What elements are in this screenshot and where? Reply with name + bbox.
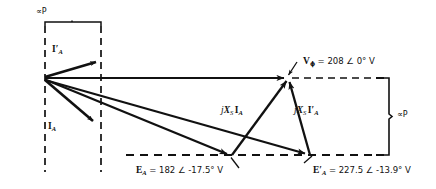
- phasor-jxs-ia: [232, 81, 287, 155]
- alpha-p-top-label: ∝P: [36, 7, 47, 16]
- leader-ea-primed: [304, 156, 312, 163]
- bracket-right-alpha-p: [382, 78, 392, 155]
- alpha-p-right-label: ∝P: [397, 110, 408, 119]
- leader-v-phi: [289, 62, 298, 75]
- jxs-ia-i-subscript: A: [238, 109, 242, 116]
- ea-primed-symbol: E′: [313, 165, 322, 175]
- jxs-ia-primed-label: jXSI′A: [294, 106, 319, 116]
- phasor-diagram-canvas: [0, 0, 436, 189]
- phasor-ea-primed: [45, 80, 305, 154]
- ea-primed-label: E′A= 227.5 ∠ -13.9° V: [313, 166, 411, 176]
- v-phi-label: Vϕ= 208 ∠ 0° V: [303, 57, 375, 67]
- jxs-ia-x-subscript: S: [230, 109, 233, 116]
- bracket-top-alpha-p: [45, 21, 101, 27]
- jxs-iap-x-subscript: S: [303, 109, 306, 116]
- ea-value: = 182 ∠ -17.5° V: [149, 165, 223, 175]
- ea-primed-subscript: A: [322, 169, 326, 176]
- ea-label: EA= 182 ∠ -17.5° V: [136, 166, 223, 176]
- leader-ea: [231, 158, 239, 169]
- current-primed-subscript: A: [58, 48, 62, 55]
- v-phi-value: = 208 ∠ 0° V: [318, 56, 375, 66]
- current-primed-label: I′A: [52, 45, 63, 55]
- ea-primed-value: = 227.5 ∠ -13.9° V: [329, 165, 411, 175]
- phasor-jxs-ia-primed: [290, 82, 311, 155]
- current-plain-label: IA: [48, 122, 56, 132]
- jxs-iap-i-subscript: A: [314, 109, 318, 116]
- current-plain-subscript: A: [52, 125, 56, 132]
- v-phi-symbol: V: [303, 56, 310, 66]
- phasor-current-primed: [45, 62, 96, 77]
- ea-subscript: A: [142, 169, 146, 176]
- jxs-ia-label: jXSIA: [221, 106, 243, 116]
- alpha-p-right-text: ∝P: [397, 110, 408, 119]
- v-phi-subscript: ϕ: [310, 60, 315, 68]
- alpha-p-top-text: ∝P: [36, 7, 47, 16]
- phasor-ea: [45, 80, 227, 155]
